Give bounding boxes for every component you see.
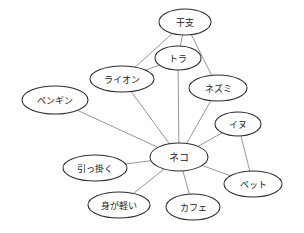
- node-label-inu: イヌ: [229, 120, 247, 130]
- node-label-neko: ネコ: [169, 152, 189, 163]
- graph-edge: [183, 171, 190, 194]
- graph-edge: [146, 65, 160, 70]
- node-label-pengin: ペンギン: [37, 96, 73, 106]
- graph-node-neko[interactable]: ネコ: [150, 143, 208, 171]
- node-label-nezumi: ネズミ: [205, 83, 232, 94]
- node-label-migakarui: 身が軽い: [101, 200, 137, 211]
- node-label-raion: ライオン: [104, 75, 140, 85]
- graph-node-eto[interactable]: 干支: [159, 9, 211, 35]
- node-label-eto: 干支: [176, 17, 194, 28]
- graph-edge: [241, 136, 250, 171]
- graph-edge: [178, 70, 179, 143]
- graph-edge: [202, 165, 230, 175]
- graph-node-kafe[interactable]: カフェ: [166, 194, 220, 220]
- concept-graph-canvas: 干支トラライオンネズミペンギンイヌネコ引っ掛くペット身が軽いカフェ: [0, 0, 304, 233]
- graph-node-raion[interactable]: ライオン: [90, 66, 154, 92]
- node-label-kafe: カフェ: [180, 203, 207, 213]
- graph-node-inu[interactable]: イヌ: [215, 112, 261, 136]
- graph-node-tora[interactable]: トラ: [155, 46, 201, 70]
- graph-node-pengin[interactable]: ペンギン: [22, 86, 88, 114]
- graph-edge: [133, 169, 164, 194]
- node-layer: 干支トラライオンネズミペンギンイヌネコ引っ掛くペット身が軽いカフェ: [22, 9, 282, 220]
- graph-node-migakarui[interactable]: 身が軽い: [88, 192, 150, 218]
- graph-edge: [131, 91, 169, 143]
- graph-node-nezumi[interactable]: ネズミ: [189, 75, 247, 101]
- node-label-hikkaku: 引っ掛く: [77, 163, 113, 174]
- graph-node-petto[interactable]: ペット: [224, 171, 282, 197]
- graph-edge: [125, 161, 151, 164]
- node-label-tora: トラ: [169, 54, 187, 64]
- graph-edge: [180, 35, 182, 46]
- graph-edge: [77, 110, 158, 147]
- graph-edge: [187, 101, 211, 144]
- node-label-petto: ペット: [240, 180, 267, 190]
- graph-edge: [198, 133, 222, 147]
- concept-graph-svg: 干支トラライオンネズミペンギンイヌネコ引っ掛くペット身が軽いカフェ: [0, 0, 304, 233]
- graph-node-hikkaku[interactable]: 引っ掛く: [63, 155, 127, 181]
